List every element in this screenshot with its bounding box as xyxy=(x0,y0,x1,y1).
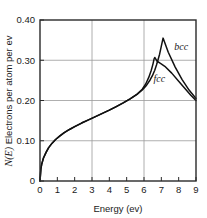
y-tick-label: 0.10 xyxy=(17,135,36,146)
annotation-fcc: fcc xyxy=(154,73,166,84)
density-of-states-figure: 0123456789 00.100.200.300.40 bccfcc Ener… xyxy=(0,0,207,218)
y-tick-label: 0.40 xyxy=(17,14,36,25)
x-tick-label: 0 xyxy=(37,184,42,195)
svg-text:N(E) Electrons per atom per ev: N(E) Electrons per atom per ev xyxy=(3,35,15,167)
x-tick-label: 1 xyxy=(55,184,60,195)
y-tick-label: 0 xyxy=(30,175,35,186)
chart-canvas: 0123456789 00.100.200.300.40 bccfcc Ener… xyxy=(0,0,207,218)
x-tick-label: 8 xyxy=(176,184,181,195)
y-axis-title-italic: N(E) xyxy=(3,146,15,167)
x-tick-label: 5 xyxy=(124,184,129,195)
y-axis-title: N(E) Electrons per atom per ev xyxy=(3,35,15,167)
x-tick-label: 6 xyxy=(141,184,146,195)
y-tick-label: 0.30 xyxy=(17,55,36,66)
x-tick-label: 3 xyxy=(89,184,94,195)
x-tick-label: 4 xyxy=(107,184,112,195)
x-tick-label: 9 xyxy=(193,184,198,195)
y-tick-label: 0.20 xyxy=(17,95,36,106)
x-tick-label: 7 xyxy=(159,184,164,195)
y-axis-title-plain: Electrons per atom per ev xyxy=(3,35,14,147)
x-axis-title: Energy (ev) xyxy=(93,203,142,214)
x-tick-label: 2 xyxy=(72,184,77,195)
annotation-bcc: bcc xyxy=(174,41,188,52)
